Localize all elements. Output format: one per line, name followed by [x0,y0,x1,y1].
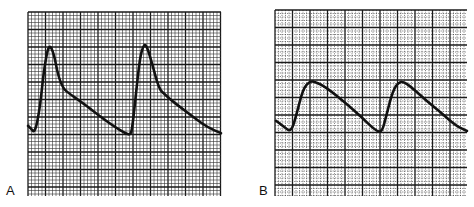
panel-label-b: B [259,183,268,198]
waveform-trace-b [276,81,467,131]
figure-canvas [0,0,474,207]
panel-label-a: A [6,183,15,198]
grid-paper-b [275,10,467,196]
grid-paper-a [28,12,221,196]
waveform-trace-a [28,45,221,134]
